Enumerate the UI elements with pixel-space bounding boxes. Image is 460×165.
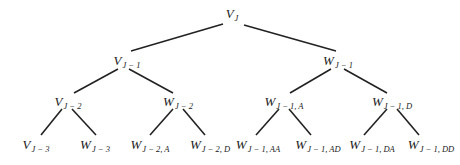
- tree-edge: [256, 109, 279, 135]
- tree-edge: [364, 109, 387, 135]
- tree-edge: [244, 25, 336, 51]
- tree-node-wj3: WJ − 3: [80, 138, 110, 154]
- tree-edge: [131, 24, 223, 51]
- tree-node-wj1d: WJ − 1, D: [372, 95, 412, 111]
- node-subscript: J: [235, 13, 239, 23]
- node-symbol: W: [190, 137, 201, 152]
- tree-node-wj2a: WJ − 2, A: [130, 138, 169, 154]
- tree-edge: [74, 69, 118, 93]
- node-subscript: J − 2, D: [202, 144, 230, 154]
- wavelet-packet-tree: VJVJ − 1WJ − 1VJ − 2WJ − 2WJ − 1, AWJ − …: [0, 0, 460, 165]
- node-symbol: W: [372, 94, 383, 109]
- tree-node-vj2: VJ − 2: [55, 95, 82, 111]
- node-subscript: J − 3: [92, 144, 110, 154]
- tree-edge: [183, 109, 205, 135]
- tree-node-vj1: VJ − 1: [114, 54, 141, 70]
- node-symbol: W: [264, 94, 275, 109]
- tree-edge: [129, 69, 173, 93]
- tree-edge: [397, 109, 419, 135]
- node-symbol: V: [55, 94, 63, 109]
- tree-node-vj: VJ: [226, 7, 239, 23]
- node-subscript: J − 1, AA: [248, 144, 281, 154]
- tree-edge: [41, 109, 62, 135]
- node-subscript: J − 2: [63, 101, 81, 111]
- node-subscript: J − 2, A: [142, 144, 169, 154]
- node-symbol: W: [349, 137, 360, 152]
- node-symbol: W: [295, 137, 306, 152]
- node-subscript: J − 1, DA: [361, 144, 395, 154]
- tree-edge: [72, 109, 96, 135]
- node-subscript: J − 1: [335, 60, 353, 70]
- tree-node-wj1aa: WJ − 1, AA: [236, 138, 280, 154]
- tree-edge: [150, 109, 173, 135]
- tree-node-wj1ad: WJ − 1, AD: [295, 138, 340, 154]
- node-symbol: V: [226, 6, 234, 21]
- node-symbol: W: [130, 137, 141, 152]
- node-subscript: J − 3: [31, 144, 49, 154]
- node-subscript: J − 1, AD: [307, 144, 340, 154]
- node-symbol: W: [163, 94, 174, 109]
- node-subscript: J − 1, D: [384, 101, 412, 111]
- tree-edge: [290, 69, 331, 93]
- tree-edge: [344, 69, 387, 93]
- tree-node-wj2: WJ − 2: [163, 95, 193, 111]
- node-symbol: V: [23, 137, 31, 152]
- node-symbol: W: [80, 137, 91, 152]
- tree-node-wj1: WJ − 1: [323, 54, 353, 70]
- node-subscript: J − 1, DD: [420, 144, 455, 154]
- node-subscript: J − 1: [122, 60, 140, 70]
- node-subscript: J − 1, A: [276, 101, 303, 111]
- node-symbol: W: [236, 137, 247, 152]
- tree-node-wj1a: WJ − 1, A: [264, 95, 303, 111]
- tree-node-vj3: VJ − 3: [23, 138, 50, 154]
- node-subscript: J − 2: [175, 101, 193, 111]
- node-symbol: V: [114, 53, 122, 68]
- tree-node-wj1da: WJ − 1, DA: [349, 138, 394, 154]
- tree-edge: [289, 109, 311, 135]
- node-symbol: W: [408, 137, 419, 152]
- tree-node-wj1dd: WJ − 1, DD: [408, 138, 454, 154]
- node-symbol: W: [323, 53, 334, 68]
- tree-node-wj2d: WJ − 2, D: [190, 138, 230, 154]
